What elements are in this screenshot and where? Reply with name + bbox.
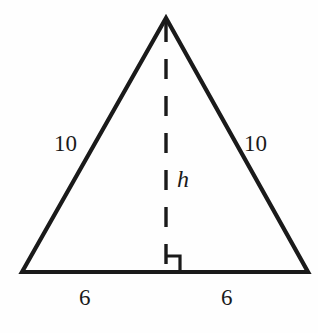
right-angle-icon	[166, 256, 180, 271]
label-side-left: 10	[54, 132, 77, 155]
triangle-diagram-svg	[0, 0, 318, 333]
label-side-right: 10	[244, 132, 267, 155]
label-base-right: 6	[221, 286, 233, 309]
label-height: h	[177, 167, 189, 191]
geometry-figure: 10 10 h 6 6	[0, 0, 318, 333]
label-base-left: 6	[79, 286, 91, 309]
